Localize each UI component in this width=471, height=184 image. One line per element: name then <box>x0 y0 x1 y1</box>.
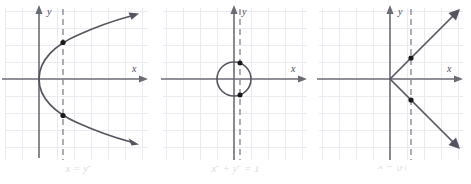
graph-panel-absolute-value: y x x = |y| <box>314 0 471 184</box>
grid-lines <box>319 8 463 160</box>
plot-area-parabola: y x <box>0 0 157 165</box>
intersection-point-upper-2 <box>238 61 243 66</box>
caption-text-2: x2 + y2 = 1 <box>157 166 314 174</box>
graph-panel-parabola: y x x = y2 <box>0 0 157 184</box>
plot-area-circle: y x <box>157 0 314 165</box>
caption-text-1: x = y2 <box>0 166 157 174</box>
vertical-line-test-figure: y x x = y2 <box>0 0 471 184</box>
caption-panel-1: x = y2 <box>0 166 157 184</box>
x-axis-label-1: x <box>131 63 137 74</box>
grid-lines <box>163 8 307 160</box>
y-axis-label-1: y <box>46 6 52 17</box>
y-axis-label-3: y <box>397 6 403 17</box>
caption-panel-3: x = |y| <box>314 166 471 184</box>
graph-panel-circle: y x x2 + y2 = 1 <box>157 0 314 184</box>
intersection-point-lower-3 <box>408 97 413 102</box>
grid-lines <box>5 8 148 160</box>
x-axis-label-3: x <box>446 63 452 74</box>
plot-area-absolute-value: y x <box>314 0 471 165</box>
x-axis-label-2: x <box>290 63 296 74</box>
caption-text-3: x = |y| <box>314 166 471 171</box>
intersection-point-lower-2 <box>238 93 243 98</box>
intersection-point-upper-3 <box>408 55 413 60</box>
y-axis-label-2: y <box>241 6 247 17</box>
intersection-point-lower-1 <box>60 113 65 118</box>
caption-panel-2: x2 + y2 = 1 <box>157 166 314 184</box>
intersection-point-upper-1 <box>60 40 65 45</box>
